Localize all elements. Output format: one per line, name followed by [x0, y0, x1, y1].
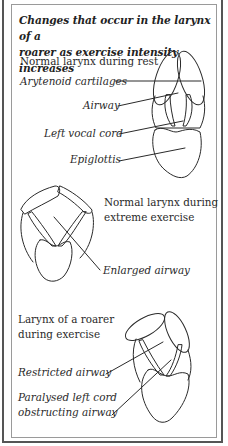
larynx-rest-drawing — [115, 48, 210, 178]
larynx-diagrams — [0, 0, 228, 446]
larynx-exercise-drawing — [21, 186, 100, 281]
larynx-roarer-drawing — [106, 308, 194, 422]
